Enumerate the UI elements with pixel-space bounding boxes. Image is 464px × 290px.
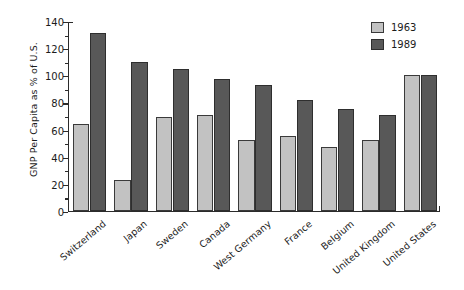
y-minor-tick-mark bbox=[65, 63, 68, 64]
category-label: Belgium bbox=[318, 218, 355, 252]
legend-swatch-1963 bbox=[371, 22, 384, 33]
bar-1963 bbox=[73, 124, 90, 211]
bar-1963 bbox=[197, 115, 214, 211]
y-minor-tick-mark bbox=[65, 171, 68, 172]
bar-group bbox=[152, 22, 193, 211]
y-tick-label: 140 bbox=[45, 17, 64, 28]
bar-1963 bbox=[156, 117, 173, 211]
y-axis-label: GNP Per Capita as % of U.S. bbox=[28, 15, 39, 205]
y-minor-tick-mark bbox=[65, 36, 68, 37]
bar-1989 bbox=[90, 33, 107, 211]
y-tick-label: 120 bbox=[45, 44, 64, 55]
category-label: Sweden bbox=[154, 218, 190, 251]
bar-group bbox=[110, 22, 151, 211]
gnp-per-capita-bar-chart: GNP Per Capita as % of U.S. 020406080100… bbox=[0, 0, 464, 290]
category-label: Switzerland bbox=[57, 218, 107, 263]
y-tick-label: 60 bbox=[51, 125, 64, 136]
bar-1989 bbox=[131, 62, 148, 211]
bar-group bbox=[193, 22, 234, 211]
y-tick-label: 80 bbox=[51, 98, 64, 109]
legend-item-1989: 1989 bbox=[371, 36, 416, 53]
y-tick-label: 0 bbox=[58, 207, 64, 218]
bar-1989 bbox=[338, 109, 355, 211]
category-label: Canada bbox=[197, 218, 232, 250]
category-label: France bbox=[283, 218, 315, 247]
y-minor-tick-mark bbox=[65, 90, 68, 91]
y-tick-label: 100 bbox=[45, 71, 64, 82]
legend-item-1963: 1963 bbox=[371, 19, 416, 36]
bar-1963 bbox=[404, 75, 421, 211]
y-minor-tick-mark bbox=[65, 144, 68, 145]
bar-1989 bbox=[255, 85, 272, 211]
chart-legend: 1963 1989 bbox=[371, 19, 416, 53]
bar-1989 bbox=[214, 79, 231, 211]
bar-1989 bbox=[379, 115, 396, 211]
bar-1963 bbox=[238, 140, 255, 211]
y-minor-tick-mark bbox=[65, 198, 68, 199]
bar-group bbox=[234, 22, 275, 211]
bar-group bbox=[317, 22, 358, 211]
y-minor-tick-mark bbox=[65, 117, 68, 118]
bar-1963 bbox=[321, 147, 338, 211]
bar-1989 bbox=[173, 69, 190, 212]
legend-label-1963: 1963 bbox=[391, 22, 416, 33]
bar-1989 bbox=[421, 75, 438, 211]
bar-1989 bbox=[297, 100, 314, 211]
bar-group bbox=[69, 22, 110, 211]
bar-1963 bbox=[362, 140, 379, 211]
legend-label-1989: 1989 bbox=[391, 39, 416, 50]
y-tick-label: 20 bbox=[51, 179, 64, 190]
y-tick-label: 40 bbox=[51, 152, 64, 163]
bar-1963 bbox=[114, 180, 131, 211]
bar-1963 bbox=[280, 136, 297, 211]
legend-swatch-1989 bbox=[371, 39, 384, 50]
category-label: Japan bbox=[121, 218, 149, 244]
bar-group bbox=[276, 22, 317, 211]
